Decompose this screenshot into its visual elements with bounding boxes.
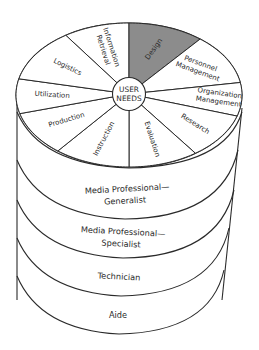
layer-label-generalist-line-2: Generalist xyxy=(104,194,147,206)
center-label-line-1: USER xyxy=(119,85,139,94)
layer-label-generalist-line-1: Media Professional— xyxy=(84,181,169,195)
layer-label-specialist-line-1: Media Professional— xyxy=(81,224,166,238)
cylinder-right-edge xyxy=(222,108,242,300)
top-disc: InformationRetrievalDesignPersonnelManag… xyxy=(16,23,243,167)
center-label-line-2: NEEDS xyxy=(116,94,142,103)
layer-label-technician: Technician xyxy=(96,270,140,282)
layer-label-aide: Aide xyxy=(109,310,127,320)
layer-label-specialist-line-2: Specialist xyxy=(101,237,142,249)
user-needs-cylinder-diagram: InformationRetrievalDesignPersonnelManag… xyxy=(0,0,259,350)
layer-labels: Media Professional— Generalist Media Pro… xyxy=(81,181,170,319)
